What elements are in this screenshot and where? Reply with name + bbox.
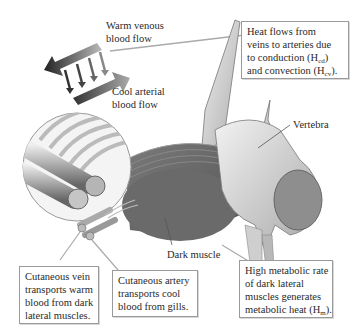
cutaneous-vein-callout: Cutaneous vein transports warm blood fro… (19, 266, 99, 324)
metabolic-heat-callout: High metabolic rate of dark lateral musc… (239, 260, 333, 318)
cool-arterial-label: Cool arterial blood flow (112, 85, 165, 111)
cutaneous-artery-callout: Cutaneous artery transports cool blood f… (112, 270, 198, 317)
vertebra-label: Vertebra (293, 118, 329, 131)
heat-flow-callout: Heat flows from veins to arteries due to… (241, 21, 349, 79)
dark-muscle-label: Dark muscle (167, 248, 220, 261)
warm-venous-label: Warm venous blood flow (106, 19, 164, 45)
